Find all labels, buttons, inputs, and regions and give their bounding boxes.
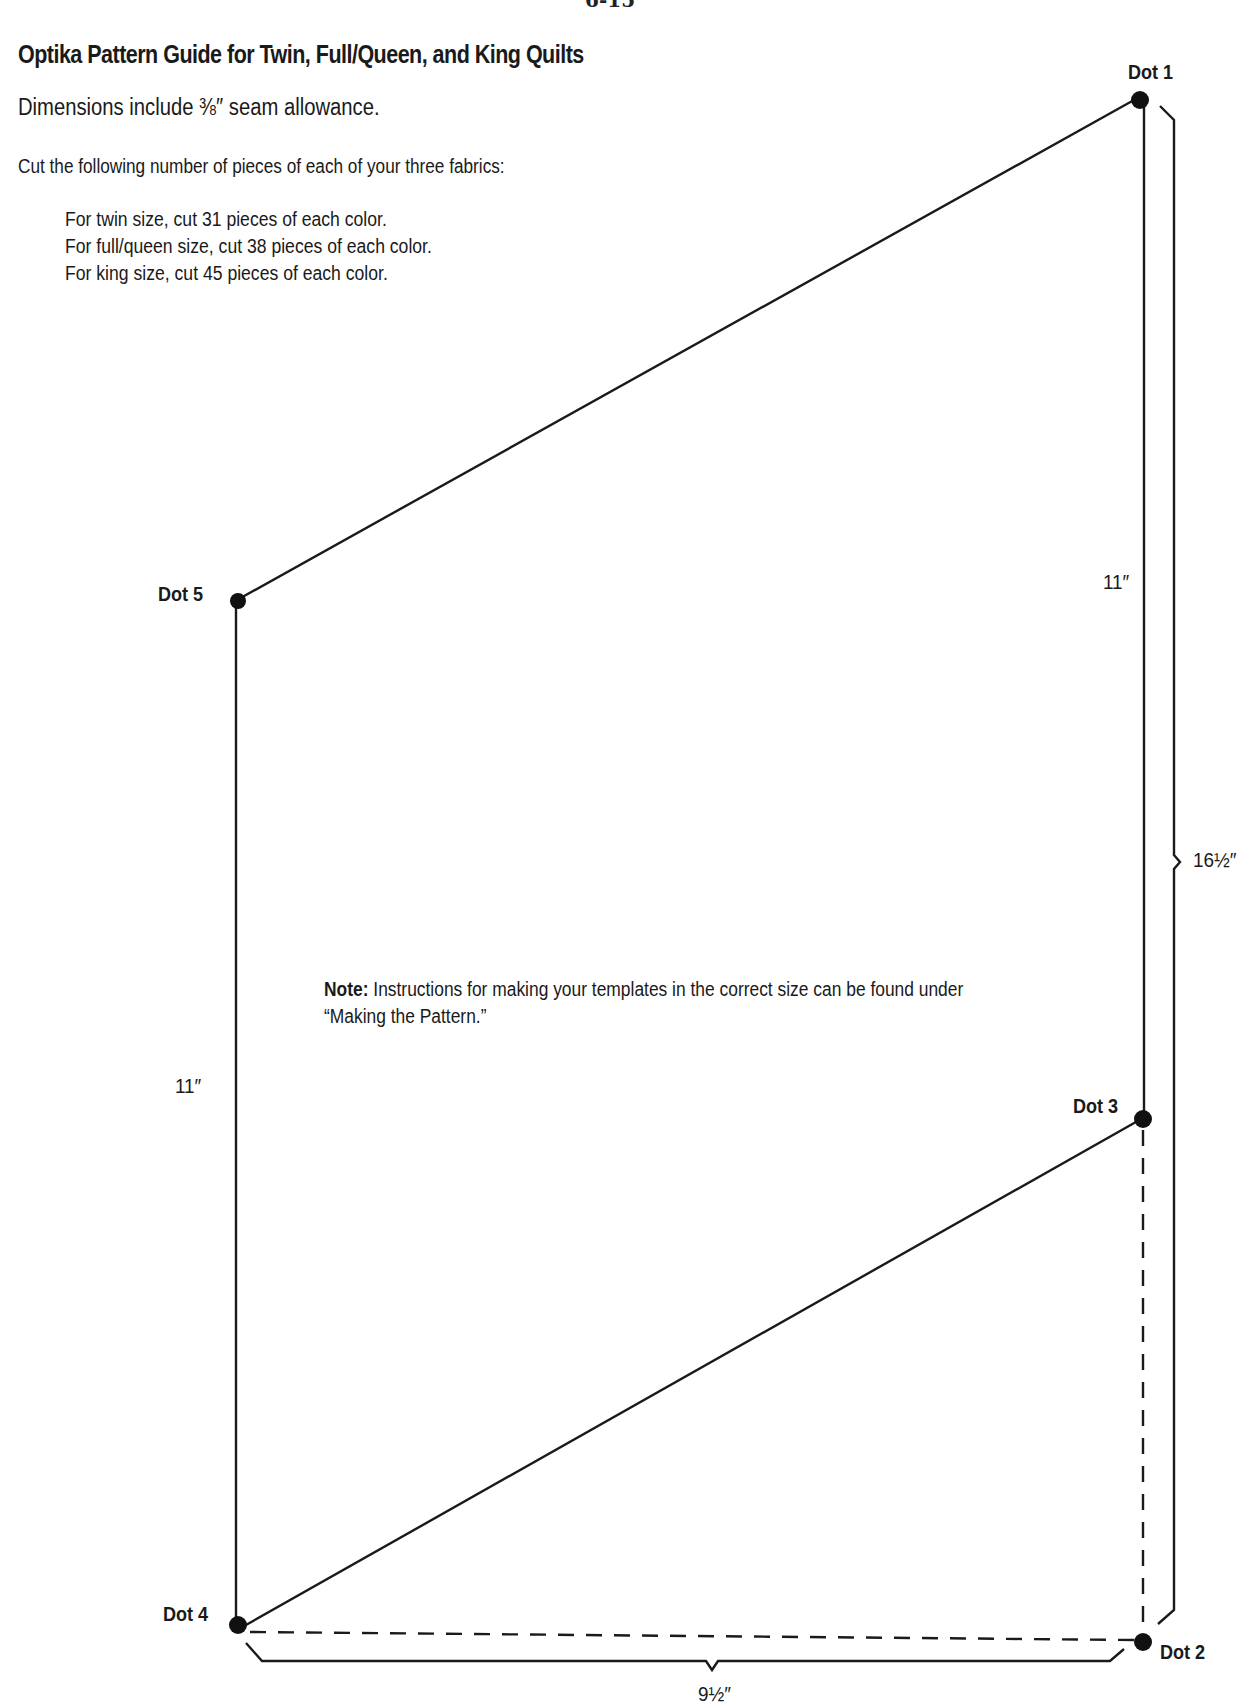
- left-edge-measure: 11″: [175, 1074, 201, 1098]
- edge-dot1-dot5: [237, 100, 1134, 600]
- right-edge-measure: 11″: [1103, 570, 1129, 594]
- dot-5-marker: [230, 593, 246, 609]
- width-measure: 9½″: [698, 1682, 731, 1706]
- height-bracket: [1158, 106, 1180, 1624]
- note-text-line2: “Making the Pattern.”: [324, 1003, 963, 1030]
- dot-3-marker: [1134, 1110, 1152, 1128]
- dot-5-label: Dot 5: [158, 582, 203, 606]
- edge-dot4-dot3: [237, 1118, 1143, 1630]
- dot-2-marker: [1134, 1633, 1152, 1651]
- note-block: Note: Instructions for making your templ…: [324, 976, 963, 1030]
- width-bracket: [246, 1643, 1124, 1670]
- dot-3-label: Dot 3: [1073, 1094, 1118, 1118]
- pattern-diagram: [0, 0, 1260, 1708]
- dot-4-marker: [229, 1616, 247, 1634]
- dot-2-label: Dot 2: [1160, 1640, 1205, 1664]
- dashed-dot4-dot2: [250, 1632, 1136, 1640]
- height-measure: 16½″: [1193, 848, 1236, 872]
- dot-4-label: Dot 4: [163, 1602, 208, 1626]
- dot-1-marker: [1131, 91, 1149, 109]
- note-label: Note:: [324, 978, 368, 1000]
- note-text: Instructions for making your templates i…: [368, 978, 963, 1000]
- dot-1-label: Dot 1: [1128, 60, 1173, 84]
